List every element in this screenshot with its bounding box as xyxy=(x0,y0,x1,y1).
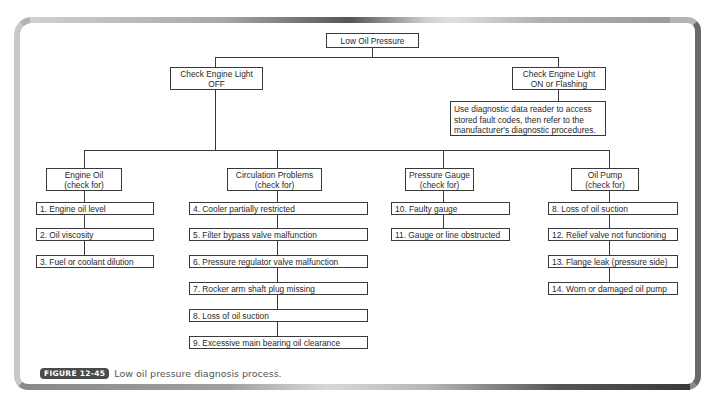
connector-to-on xyxy=(558,57,559,67)
frame-top-edge xyxy=(30,17,670,23)
category-title: Oil Pump xyxy=(572,170,638,180)
category-subtitle: (check for) xyxy=(47,180,121,190)
root-node: Low Oil Pressure xyxy=(326,33,419,48)
connector-on-to-note xyxy=(558,89,559,101)
list-item: 9. Excessive main bearing oil clearance xyxy=(189,336,368,349)
figure-caption: FIGURE 12-45 Low oil pressure diagnosis … xyxy=(40,368,282,379)
connector-top-bus xyxy=(215,57,559,58)
branch-off-line1: Check Engine Light xyxy=(171,69,262,79)
list-item: 13. Flange leak (pressure side) xyxy=(548,255,678,268)
item-label: 4. Cooler partially restricted xyxy=(193,204,295,214)
list-item: 5. Filter bypass valve malfunction xyxy=(189,228,368,241)
item-label: 1. Engine oil level xyxy=(40,204,106,214)
item-label: 6. Pressure regulator valve malfunction xyxy=(193,257,338,267)
connector-to-off xyxy=(215,57,216,67)
list-item: 4. Cooler partially restricted xyxy=(189,202,368,215)
list-item: 8. Loss of oil suction xyxy=(548,202,678,215)
list-item: 3. Fuel or coolant dilution xyxy=(36,255,154,268)
item-label: 8. Loss of oil suction xyxy=(193,311,269,321)
list-item: 12. Relief valve not functioning xyxy=(548,228,678,241)
list-item: 6. Pressure regulator valve malfunction xyxy=(189,255,368,268)
list-item: 7. Rocker arm shaft plug missing xyxy=(189,282,368,295)
item-label: 10. Faulty gauge xyxy=(395,204,457,214)
item-label: 7. Rocker arm shaft plug missing xyxy=(193,284,315,294)
figure-label-badge: FIGURE 12-45 xyxy=(40,368,109,379)
connector-to-pump xyxy=(609,150,610,168)
item-label: 8. Loss of oil suction xyxy=(552,204,628,214)
category-subtitle: (check for) xyxy=(572,180,638,190)
category-circulation-problems: Circulation Problems (check for) xyxy=(227,168,322,191)
item-label: 11. Gauge or line obstructed xyxy=(395,230,500,240)
connector-engine-oil-items xyxy=(84,190,85,255)
branch-light-off: Check Engine Light OFF xyxy=(170,67,263,90)
category-oil-pump: Oil Pump (check for) xyxy=(571,168,639,191)
frame-bottom-edge xyxy=(30,384,690,390)
list-item: 2. Oil viscosity xyxy=(36,228,154,241)
connector-to-engine-oil xyxy=(84,150,85,168)
connector-to-gauge xyxy=(443,150,444,168)
connector-category-bus xyxy=(84,150,610,151)
item-label: 14. Worn or damaged oil pump xyxy=(552,284,667,294)
category-title: Engine Oil xyxy=(47,170,121,180)
list-item: 8. Loss of oil suction xyxy=(189,309,368,322)
branch-on-line1: Check Engine Light xyxy=(513,69,605,79)
diagnostic-note-line1: Use diagnostic data reader to access xyxy=(454,104,602,115)
connector-to-circulation xyxy=(277,150,278,168)
category-subtitle: (check for) xyxy=(228,180,321,190)
category-subtitle: (check for) xyxy=(406,180,473,190)
category-title: Pressure Gauge xyxy=(406,170,473,180)
connector-root-down xyxy=(372,47,373,57)
category-title: Circulation Problems xyxy=(228,170,321,180)
diagnostic-note: Use diagnostic data reader to access sto… xyxy=(450,101,606,136)
item-label: 3. Fuel or coolant dilution xyxy=(40,257,134,267)
category-pressure-gauge: Pressure Gauge (check for) xyxy=(405,168,474,191)
connector-off-down xyxy=(215,89,216,150)
list-item: 14. Worn or damaged oil pump xyxy=(548,282,678,295)
branch-off-line2: OFF xyxy=(171,79,262,89)
item-label: 9. Excessive main bearing oil clearance xyxy=(193,338,340,348)
diagnostic-note-line2: stored fault codes, then refer to the xyxy=(454,115,602,126)
branch-on-line2: ON or Flashing xyxy=(513,79,605,89)
list-item: 11. Gauge or line obstructed xyxy=(391,228,510,241)
list-item: 1. Engine oil level xyxy=(36,202,154,215)
caption-text: Low oil pressure diagnosis process. xyxy=(114,368,281,379)
item-label: 12. Relief valve not functioning xyxy=(552,230,666,240)
item-label: 2. Oil viscosity xyxy=(40,230,94,240)
branch-light-on: Check Engine Light ON or Flashing xyxy=(512,67,606,90)
category-engine-oil: Engine Oil (check for) xyxy=(46,168,122,191)
list-item: 10. Faulty gauge xyxy=(391,202,510,215)
diagnostic-note-line3: manufacturer's diagnostic procedures. xyxy=(454,125,602,136)
item-label: 13. Flange leak (pressure side) xyxy=(552,257,667,267)
item-label: 5. Filter bypass valve malfunction xyxy=(193,230,317,240)
root-label: Low Oil Pressure xyxy=(327,36,418,46)
